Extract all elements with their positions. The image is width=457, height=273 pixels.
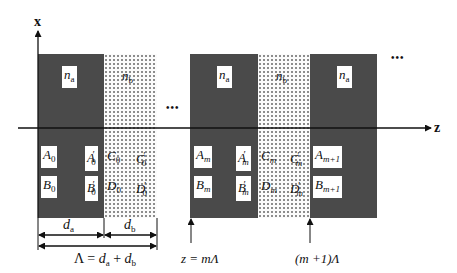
coeff-Bm: Bm <box>194 176 212 198</box>
coeff-Bm1: Bm+1 <box>313 176 342 198</box>
marker-z-m-lambda: z = mΛ <box>181 251 219 266</box>
coeff-A0-prime: A′0 <box>85 146 98 171</box>
coeff-A0: A0 <box>41 146 57 168</box>
coeff-C0: C0 <box>107 148 120 168</box>
ellipsis-right: ••• <box>391 50 405 65</box>
coeff-Am1: Am+1 <box>313 146 342 168</box>
coeff-Am: Am <box>194 146 212 168</box>
coeff-Cm-prime: C′m <box>290 148 302 171</box>
coeff-Am-prime: A′m <box>236 146 251 171</box>
coeff-Bm-prime: B′m <box>236 176 251 201</box>
index-label-nb-cell0: nb <box>122 68 133 88</box>
index-label-na-cell0: na <box>62 66 77 88</box>
z-axis-label: z <box>434 120 440 135</box>
index-label-nb-cellm: nb <box>276 68 287 88</box>
dimension-da: da <box>63 217 74 237</box>
coeff-Dm-prime: D′m <box>290 178 303 201</box>
x-axis-label: x <box>34 14 41 29</box>
coeff-B0-prime: B′0 <box>85 176 98 201</box>
coeff-D0: D0 <box>107 178 121 198</box>
coeff-B0: B0 <box>41 176 57 198</box>
dimension-period: Λ = da + db <box>74 251 136 271</box>
index-label-na-cellm: na <box>217 66 232 88</box>
coeff-Cm: Cm <box>261 148 276 168</box>
coeff-C0-prime: C′0 <box>136 148 146 171</box>
dimension-db: db <box>124 217 136 237</box>
marker-m-plus-1-lambda: (m +1)Λ <box>295 251 339 266</box>
coeff-D0-prime: D′0 <box>136 178 147 201</box>
coeff-Dm: Dm <box>261 178 277 198</box>
index-label-na-cellm1: na <box>337 66 352 88</box>
ellipsis-middle: ••• <box>166 100 180 115</box>
